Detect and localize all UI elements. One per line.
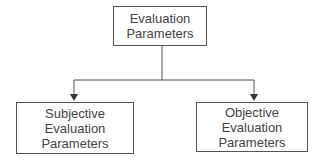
child-node-objective: Objective Evaluation Parameters [196,102,308,152]
objective-line-1: Objective [225,105,279,120]
child-node-subjective: Subjective Evaluation Parameters [16,102,134,154]
arrowhead-right [250,94,258,101]
root-node-evaluation-parameters: Evaluation Parameters [113,6,207,46]
subjective-line-1: Subjective [45,106,105,121]
root-node-line-1: Evaluation [130,11,191,26]
subjective-line-3: Parameters [41,136,108,151]
objective-line-2: Evaluation [222,120,283,135]
subjective-line-2: Evaluation [45,121,106,136]
arrowhead-left [70,94,78,101]
root-node-line-2: Parameters [126,26,193,41]
objective-line-3: Parameters [218,135,285,150]
